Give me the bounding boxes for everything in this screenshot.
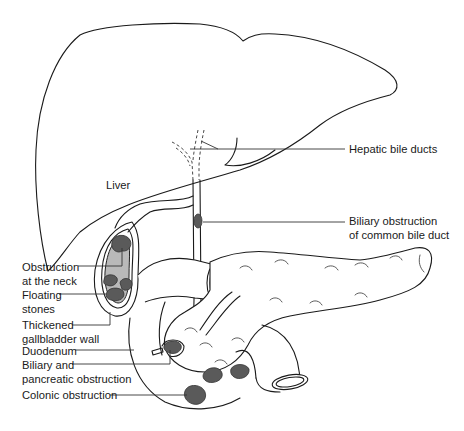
label-neck-line2: at the neck [22,274,79,288]
label-floating-line2: stones [22,302,62,316]
label-floating-line1: Floating [22,288,62,302]
label-duodenum: Duodenum [22,344,77,358]
label-pancreatic-line2: pancreatic obstruction [22,372,131,386]
colon-stone-3 [184,385,205,404]
label-cbd-line1: Biliary obstruction [349,214,449,228]
floating-stone-2 [120,279,132,291]
label-neck-obstruction: Obstruction at the neck [22,260,79,288]
label-cbd-obstruction: Biliary obstruction of common bile duct [349,214,449,242]
label-cbd-line2: of common bile duct [349,228,449,242]
label-neck-line1: Obstruction [22,260,79,274]
label-pancreatic-obstruction: Biliary and pancreatic obstruction [22,358,131,386]
label-thickened-wall: Thickened gallbladder wall [22,318,99,346]
ampullary-stone [164,341,182,354]
cbd-stone [194,214,202,228]
floating-stone-1 [104,275,118,286]
floating-stone-3 [106,288,124,301]
label-colonic-obstruction: Colonic obstruction [22,388,117,402]
neck-stone [112,235,131,252]
colon-stone-2 [231,365,249,379]
liver [36,23,397,271]
label-hepatic-bile-ducts: Hepatic bile ducts [349,142,437,156]
label-wall-line1: Thickened [22,318,99,332]
label-liver: Liver [106,178,130,192]
label-pancreatic-line1: Biliary and [22,358,131,372]
label-floating-stones: Floating stones [22,288,62,316]
hepatic-bile-ducts [172,130,204,180]
